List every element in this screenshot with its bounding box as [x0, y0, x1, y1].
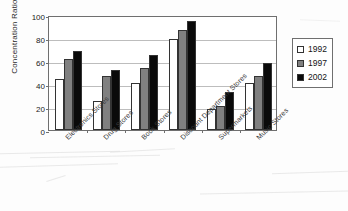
bar	[169, 39, 178, 130]
bar	[216, 106, 225, 130]
y-axis-tick-label: 60	[36, 59, 45, 68]
legend-entry: 1992	[297, 42, 327, 56]
y-axis-title: Concentration Ratio	[10, 0, 19, 89]
bar-group	[49, 17, 87, 130]
y-axis-tick-label: 20	[36, 105, 45, 114]
scan-artifact-line	[200, 190, 348, 194]
bar	[187, 21, 196, 130]
bar	[140, 68, 149, 130]
x-axis-tick-mark	[164, 130, 165, 133]
scan-artifact-line	[46, 175, 65, 182]
bar	[55, 79, 64, 130]
y-axis-tick-label: 40	[36, 82, 45, 91]
bar	[178, 30, 187, 130]
x-axis-tick-mark	[125, 130, 126, 133]
white-square-swatch	[297, 46, 304, 53]
scan-artifact-line	[300, 19, 340, 21]
legend-label: 1997	[308, 58, 327, 68]
bar	[64, 59, 73, 130]
scan-artifact-line	[272, 171, 348, 175]
y-axis-tick-label: 100	[32, 13, 45, 22]
legend-label: 1992	[308, 44, 327, 54]
black-square-swatch	[297, 74, 304, 81]
legend-entry: 1997	[297, 56, 327, 70]
x-axis-tick-mark	[240, 130, 241, 133]
gray-square-swatch	[297, 60, 304, 67]
scan-artifact-line	[0, 151, 120, 155]
y-axis-tick-mark	[46, 132, 49, 133]
bar	[131, 83, 140, 130]
legend-entry: 2002	[297, 70, 327, 84]
bar	[254, 76, 263, 130]
scan-artifact-line	[110, 148, 175, 152]
chart-legend: 199219972002	[292, 38, 333, 88]
chart-page: Concentration Ratio 020406080100 Electro…	[0, 0, 348, 211]
y-axis-tick-label: 0	[41, 128, 45, 137]
scan-artifact-line	[0, 163, 118, 167]
legend-label: 2002	[308, 72, 327, 82]
scan-artifact-line	[30, 155, 160, 158]
x-axis-tick-mark	[202, 130, 203, 133]
y-axis-tick-label: 80	[36, 36, 45, 45]
x-axis-tick-mark	[87, 130, 88, 133]
